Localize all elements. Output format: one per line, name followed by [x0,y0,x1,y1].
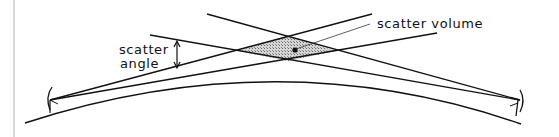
scatter-point [292,47,297,52]
scatter-volume-region [238,36,336,61]
earth-surface-arc [25,82,521,124]
left-beam-lower [50,33,437,100]
right-beam-lower [150,35,520,100]
scatter-angle-label-line2: angle [120,57,159,71]
left-beam-upper [50,14,372,100]
scatter-angle-arrow-icon [174,41,180,68]
scatter-volume-leader [296,24,370,49]
scatter-angle-label-line1: scatter [119,43,169,57]
receiver-antenna-icon [510,90,523,116]
scatter-volume-label: scatter volume [377,17,483,31]
scatter-diagram: scatter volume scatter angle [0,0,559,137]
